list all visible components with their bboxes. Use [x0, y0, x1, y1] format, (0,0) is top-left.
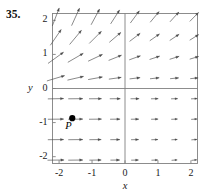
y-axis-label: y [28, 82, 33, 93]
plot-axes [53, 14, 198, 164]
x-tick-label-neg2: -2 [49, 167, 69, 178]
y-tick-label-0: 0 [0, 82, 48, 93]
axis-ticks [53, 20, 191, 163]
point-P-label: P [65, 120, 71, 131]
y-tick-label-2: 2 [0, 13, 48, 24]
x-tick-label-1: 1 [148, 167, 168, 178]
y-tick-label-neg2: -2 [0, 150, 48, 161]
direction-field-arrows [47, 8, 198, 161]
x-tick-label-neg1: -1 [82, 167, 102, 178]
x-axis-label: x [115, 180, 135, 191]
direction-field-figure: 35. 2 1 0 -1 -2 -2 -1 0 1 2 y x P [0, 0, 206, 193]
y-tick-label-1: 1 [0, 47, 48, 58]
slope-field-plot [0, 0, 206, 193]
x-tick-label-2: 2 [181, 167, 201, 178]
y-tick-label-neg1: -1 [0, 116, 48, 127]
x-tick-label-0: 0 [115, 167, 135, 178]
